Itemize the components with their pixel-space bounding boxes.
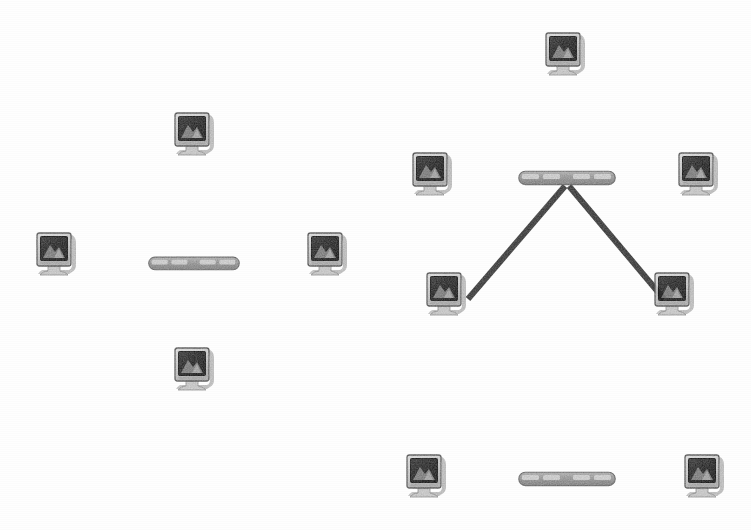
hub-tree-lower[interactable] xyxy=(519,472,615,485)
computer-tree-right[interactable] xyxy=(679,153,718,195)
hub-star[interactable] xyxy=(149,257,239,270)
star-topology-links xyxy=(78,158,310,352)
computer-tree-bottom-left[interactable] xyxy=(407,455,446,497)
link-tree-diag-left xyxy=(468,186,565,299)
tree-topology-links xyxy=(448,78,686,479)
computer-star-bottom[interactable] xyxy=(175,348,214,390)
computer-star-top[interactable] xyxy=(175,113,214,155)
computer-tree-left[interactable] xyxy=(413,153,452,195)
network-topology-diagram xyxy=(0,0,751,530)
computer-tree-bottom-right[interactable] xyxy=(685,455,724,497)
link-tree-diag-right xyxy=(569,186,664,299)
computer-star-right[interactable] xyxy=(308,233,347,275)
computer-tree-top[interactable] xyxy=(546,33,585,75)
computer-star-left[interactable] xyxy=(37,233,76,275)
hubs-layer xyxy=(149,171,615,485)
computer-tree-diag-left[interactable] xyxy=(427,273,466,315)
computer-tree-diag-right[interactable] xyxy=(655,273,694,315)
topology-canvas xyxy=(0,0,751,530)
links-layer xyxy=(78,78,686,479)
hub-tree-upper[interactable] xyxy=(519,171,615,184)
